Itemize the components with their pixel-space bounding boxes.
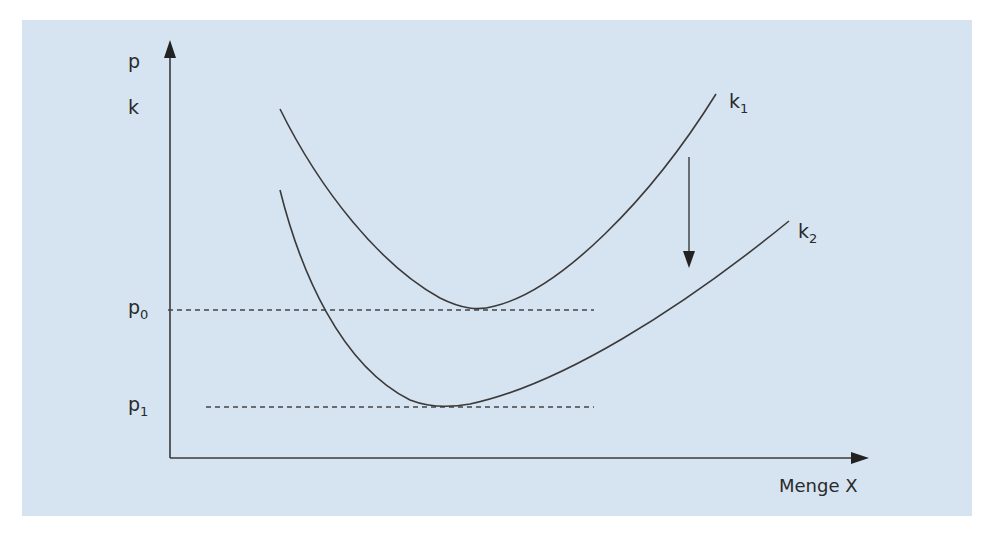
cost-curve-diagram — [0, 0, 995, 538]
p1-label: p1 — [128, 395, 148, 418]
y-axis-secondary-label: k — [128, 98, 139, 117]
p0-label: p0 — [128, 298, 148, 321]
k2-label: k2 — [798, 222, 817, 245]
k1-label: k1 — [729, 92, 748, 115]
shift-arrow-down-icon — [683, 251, 695, 268]
x-axis-label: Menge X — [779, 477, 858, 495]
y-axis-arrowhead-icon — [164, 40, 176, 58]
curve-k1 — [280, 94, 716, 309]
y-axis-label: p — [128, 52, 140, 71]
x-axis-arrowhead-icon — [851, 452, 869, 464]
curve-k2 — [280, 190, 789, 406]
